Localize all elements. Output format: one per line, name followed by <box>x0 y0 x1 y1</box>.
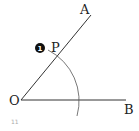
label-b: B <box>124 102 134 117</box>
angle-diagram: 1 A P O B 11 <box>0 0 139 131</box>
step-marker-label: 1 <box>38 45 43 53</box>
label-p: P <box>51 40 60 55</box>
label-o: O <box>9 93 20 108</box>
label-a: A <box>79 2 90 17</box>
ray-oa <box>21 15 91 100</box>
footer-number: 11 <box>11 118 19 125</box>
arc-centered-o <box>48 50 79 116</box>
